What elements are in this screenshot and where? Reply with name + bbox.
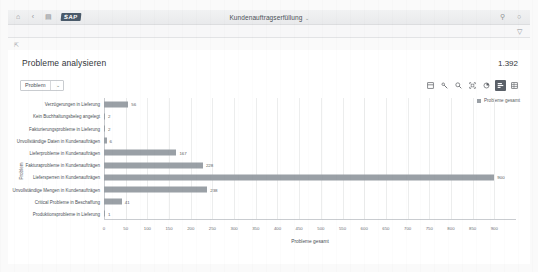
bar-value-label: 1 (108, 211, 110, 216)
category-label: Unvollständige Mengen in Kundenaufträgen (12, 187, 100, 192)
zoom-icon[interactable] (453, 80, 464, 91)
x-tick-label: 900 (491, 226, 498, 231)
bar-value-label: 6 (110, 138, 112, 143)
x-axis-title: Probleme gesamt (104, 239, 516, 244)
shell-title[interactable]: Kundenauftragserfüllung⌄ (8, 14, 530, 21)
bar[interactable] (104, 138, 107, 144)
x-tick-label: 800 (447, 226, 454, 231)
x-tick-label: 850 (469, 226, 476, 231)
chevron-down-icon: ⌄ (305, 15, 309, 21)
bar[interactable] (104, 150, 176, 156)
bar-row[interactable]: Fakturaprobleme in Kundenaufträgen228 (104, 161, 516, 170)
x-axis-ticks: 0501001502002503003504004505005506006507… (104, 226, 516, 234)
x-tick-label: 400 (274, 226, 281, 231)
bar-value-label: 900 (497, 175, 504, 180)
page-header: Probleme analysieren 1.392 (8, 50, 530, 76)
pie-chart-icon[interactable] (481, 80, 492, 91)
filter-bar: ▽ (8, 25, 530, 38)
bar[interactable] (104, 199, 122, 205)
x-tick-label: 750 (426, 226, 433, 231)
x-tick-label: 300 (231, 226, 238, 231)
bar-row[interactable]: Liefersperren in Kundenaufträgen900 (104, 173, 516, 182)
app-window: ⌂ ‹ ▤ SAP Kundenauftragserfüllung⌄ ⚲ ○ ▽… (0, 0, 538, 272)
divider (50, 81, 51, 90)
bar[interactable] (104, 211, 105, 217)
x-tick-label: 500 (317, 226, 324, 231)
shell-bar: ⌂ ‹ ▤ SAP Kundenauftragserfüllung⌄ ⚲ ○ (8, 10, 530, 25)
x-tick-label: 700 (404, 226, 411, 231)
category-label: Verzögerungen in Lieferung (45, 102, 100, 107)
bar-value-label: 228 (206, 163, 213, 168)
category-label: Unvollständige Daten in Kundenaufträgen (17, 138, 100, 143)
x-tick-label: 200 (187, 226, 194, 231)
kpi-total-count: 1.392 (498, 59, 518, 68)
content-card: Probleme analysieren 1.392 Problem ⌄ (8, 50, 530, 264)
bar-row[interactable]: Unvollständige Daten in Kundenaufträgen6 (104, 136, 516, 145)
x-tick-label: 550 (339, 226, 346, 231)
bar-row[interactable]: Lieferprobleme in Kundenaufträgen167 (104, 148, 516, 157)
search-icon[interactable]: ⚲ (498, 13, 506, 21)
bar[interactable] (104, 174, 494, 180)
chevron-down-icon: ⌄ (56, 83, 60, 88)
category-label: Fakturierungsprobleme in Lieferung (29, 126, 100, 131)
bar-row[interactable]: Verzögerungen in Lieferung56 (104, 100, 516, 109)
bar[interactable] (104, 162, 203, 168)
category-label: Liefersperren in Kundenaufträgen (33, 175, 100, 180)
category-label: Kein Buchhaltungsbeleg angelegt (33, 114, 100, 119)
bar-value-label: 167 (179, 150, 186, 155)
category-label: Produktionsprobleme in Lieferung (33, 211, 100, 216)
fullscreen-icon[interactable] (467, 80, 478, 91)
x-tick-label: 0 (103, 226, 105, 231)
bar-value-label: 2 (108, 114, 110, 119)
bar-row[interactable]: Critical Probleme in Beschaffung41 (104, 197, 516, 206)
dimension-select[interactable]: Problem ⌄ (20, 80, 64, 91)
x-tick-label: 50 (123, 226, 128, 231)
drill-down-icon[interactable] (425, 80, 436, 91)
x-tick-label: 350 (252, 226, 259, 231)
y-axis-title: Problem (19, 162, 24, 179)
bar-chart-icon[interactable] (495, 80, 506, 91)
dimension-select-label: Problem (25, 82, 45, 88)
x-tick-label: 600 (361, 226, 368, 231)
bar-row[interactable]: Kein Buchhaltungsbeleg angelegt2 (104, 112, 516, 121)
bar[interactable] (104, 126, 105, 132)
shell-title-text: Kundenauftragserfüllung (229, 14, 302, 21)
category-label: Fakturaprobleme in Kundenaufträgen (25, 163, 100, 168)
bar-value-label: 238 (210, 187, 217, 192)
bar[interactable] (104, 101, 128, 107)
bar-row[interactable]: Unvollständige Mengen in Kundenaufträgen… (104, 185, 516, 194)
x-tick-label: 650 (382, 226, 389, 231)
x-tick-label: 450 (296, 226, 303, 231)
category-label: Lieferprobleme in Kundenaufträgen (29, 150, 100, 155)
filter-funnel-icon[interactable]: ▽ (517, 28, 524, 35)
back-arrow-icon[interactable]: ⇱ (14, 41, 19, 48)
bar-value-label: 41 (125, 199, 130, 204)
bar-rows: Verzögerungen in Lieferung56Kein Buchhal… (104, 98, 516, 220)
chart-toolbar: Problem ⌄ (8, 76, 530, 94)
bar-row[interactable]: Fakturierungsprobleme in Lieferung2 (104, 124, 516, 133)
chart-tool-icons (425, 80, 520, 91)
user-avatar-icon[interactable]: ○ (515, 13, 523, 21)
bar[interactable] (104, 113, 105, 119)
settings-wrench-icon[interactable] (439, 80, 450, 91)
x-tick-label: 250 (209, 226, 216, 231)
category-label: Critical Probleme in Beschaffung (35, 199, 100, 204)
bar-row[interactable]: Produktionsprobleme in Lieferung1 (104, 209, 516, 218)
plot-area: Verzögerungen in Lieferung56Kein Buchhal… (104, 98, 516, 220)
bar-chart: Problem Verzögerungen in Lieferung56Kein… (8, 96, 530, 246)
bar-value-label: 2 (108, 126, 110, 131)
table-view-icon[interactable] (509, 80, 520, 91)
x-tick-label: 150 (165, 226, 172, 231)
breadcrumb: ⇱ (8, 38, 530, 50)
bar-value-label: 56 (131, 102, 136, 107)
x-tick-label: 100 (144, 226, 151, 231)
page-title: Probleme analysieren (22, 58, 106, 68)
bar[interactable] (104, 187, 207, 193)
